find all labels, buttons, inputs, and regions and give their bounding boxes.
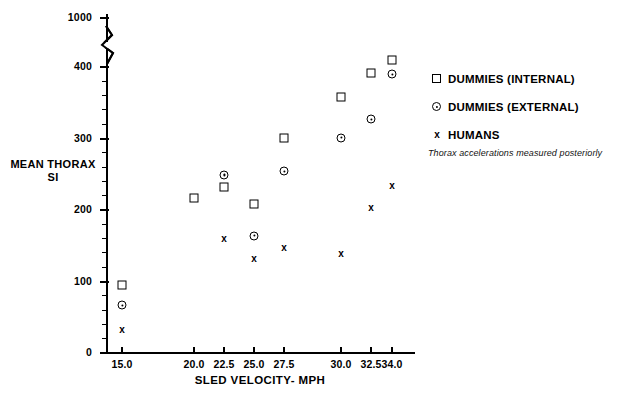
legend-note: Thorax accelerations measured posteriorl…	[428, 148, 602, 158]
x-marker: x	[249, 254, 259, 264]
square-marker	[250, 199, 259, 208]
legend-label: DUMMIES (EXTERNAL)	[448, 101, 579, 113]
y-axis-title: MEAN THORAX SI	[10, 158, 96, 184]
square-marker	[190, 193, 199, 202]
y-minor-tick	[102, 124, 108, 125]
square-marker	[118, 281, 127, 290]
y-minor-tick	[102, 310, 108, 311]
circle-dot-marker	[367, 115, 376, 124]
x-tick-label: 27.5	[273, 358, 294, 370]
x-tick	[121, 347, 123, 354]
x-tick-label: 20.0	[183, 358, 204, 370]
y-minor-tick	[102, 224, 108, 225]
y-minor-tick	[102, 338, 108, 339]
scatter-chart: 01002003004001000 15.020.022.525.027.530…	[0, 0, 617, 394]
y-axis-break-icon	[98, 26, 120, 64]
legend-item: xHUMANS	[432, 128, 612, 141]
x-tick-label: 22.5	[213, 358, 234, 370]
legend: DUMMIES (INTERNAL)DUMMIES (EXTERNAL)xHUM…	[432, 72, 612, 156]
legend-label: DUMMIES (INTERNAL)	[448, 73, 575, 85]
legend-label: HUMANS	[448, 129, 500, 141]
x-tick	[391, 347, 393, 354]
y-axis-line	[106, 14, 108, 353]
x-tick	[370, 347, 372, 354]
y-minor-tick	[102, 324, 108, 325]
x-axis-line	[106, 352, 415, 354]
square-marker	[337, 93, 346, 102]
x-marker: x	[336, 249, 346, 259]
y-minor-tick	[102, 81, 108, 82]
square-marker	[220, 183, 229, 192]
circle-dot-marker	[220, 170, 229, 179]
y-tick	[100, 17, 109, 19]
x-marker: x	[432, 130, 442, 140]
x-tick-label: 30.0	[330, 358, 351, 370]
circle-dot-marker	[337, 133, 346, 142]
y-minor-tick	[102, 95, 108, 96]
circle-dot-marker	[250, 231, 259, 240]
y-tick-label: 400	[0, 60, 96, 72]
y-tick	[100, 66, 109, 68]
y-minor-tick	[102, 238, 108, 239]
y-tick-label: 200	[0, 203, 96, 215]
square-marker	[388, 56, 397, 65]
x-tick	[193, 347, 195, 354]
y-minor-tick	[102, 152, 108, 153]
legend-item: DUMMIES (EXTERNAL)	[432, 100, 612, 113]
x-tick-label: 32.5	[360, 358, 381, 370]
legend-item: DUMMIES (INTERNAL)	[432, 72, 612, 85]
legend-key	[432, 73, 448, 85]
y-tick-label: 100	[0, 275, 96, 287]
x-tick-label: 25.0	[243, 358, 264, 370]
circle-dot-marker	[432, 102, 441, 111]
y-minor-tick	[102, 267, 108, 268]
y-minor-tick	[102, 295, 108, 296]
x-tick	[340, 347, 342, 354]
circle-dot-marker	[388, 70, 397, 79]
y-tick	[100, 281, 109, 283]
x-marker: x	[219, 234, 229, 244]
x-tick	[283, 347, 285, 354]
x-marker: x	[387, 181, 397, 191]
y-minor-tick	[102, 181, 108, 182]
circle-dot-marker	[280, 167, 289, 176]
square-marker	[367, 68, 376, 77]
y-minor-tick	[102, 195, 108, 196]
x-tick-label: 15.0	[111, 358, 132, 370]
legend-key	[432, 101, 448, 113]
y-tick-label: 1000	[0, 11, 96, 23]
x-marker: x	[366, 203, 376, 213]
y-tick-label: 300	[0, 132, 96, 144]
x-tick	[253, 347, 255, 354]
square-marker	[280, 133, 289, 142]
x-axis-title: SLED VELOCITY- MPH	[140, 374, 380, 386]
y-tick	[100, 352, 109, 354]
x-marker: x	[279, 243, 289, 253]
circle-dot-marker	[118, 301, 127, 310]
y-minor-tick	[102, 109, 108, 110]
y-tick	[100, 209, 109, 211]
x-marker: x	[117, 325, 127, 335]
y-tick-label: 0	[0, 346, 96, 358]
y-tick	[100, 138, 109, 140]
y-minor-tick	[102, 167, 108, 168]
legend-key: x	[432, 129, 448, 141]
x-tick-label: 34.0	[381, 358, 402, 370]
x-tick	[223, 347, 225, 354]
y-minor-tick	[102, 252, 108, 253]
square-marker	[432, 74, 441, 83]
